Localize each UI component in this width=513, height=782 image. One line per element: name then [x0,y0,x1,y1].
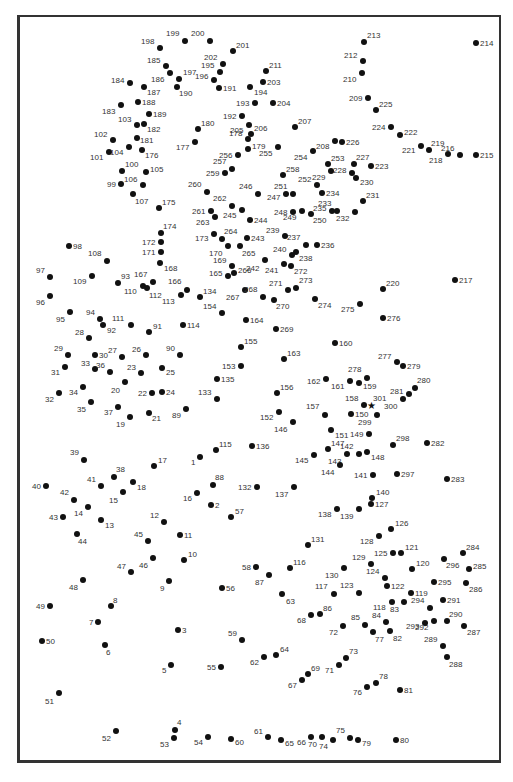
dot-label: 118 [373,604,386,612]
dot-label: 286 [469,586,482,594]
dot-label: 152 [260,414,273,422]
dot-label: 266 [238,267,251,275]
dot-102 [110,137,116,143]
dot-label: 206 [254,125,267,133]
dot-label: 20 [111,387,120,395]
dot-label: 211 [269,62,282,70]
dot-246 [255,191,261,197]
dot-210 [359,70,365,76]
dot-label: 2 [215,502,219,510]
dot-label: 117 [315,583,328,591]
dot-161 [347,378,353,384]
dot-label: 80 [400,737,409,745]
dot-label: 10 [188,551,197,559]
dot-2 [208,502,214,508]
dot-label: 296 [446,562,459,570]
dot-140 [369,495,375,501]
dot-label: 123 [340,582,353,590]
dot-132 [254,484,260,490]
dot-label: 7 [89,619,93,627]
dot-label: 19 [116,421,125,429]
dot-label: 47 [117,563,126,571]
dot-label: 64 [280,646,289,654]
dot-label: 295 [438,579,451,587]
dot-label: 111 [112,315,124,323]
dot-label: 180 [201,120,214,128]
dot-label: 246 [239,183,252,191]
dot-154 [219,310,225,316]
dot-62 [261,654,267,660]
dot-81 [397,687,403,693]
dot-label: 21 [152,415,161,423]
dot-291 [440,597,446,603]
dot-14 [85,504,91,510]
dot-label: 282 [431,440,444,448]
dot-61 [265,734,271,740]
dot-114 [180,322,186,328]
dot-130 [341,565,347,571]
dot-152 [276,409,282,415]
dot-68 [308,612,314,618]
dot-label: 263 [196,219,209,227]
dot-label: 215 [480,152,493,160]
dot-150 [348,411,354,417]
dot-297 [394,471,400,477]
dot-38 [111,474,117,480]
dot-34 [80,384,86,390]
dot-label: 33 [81,360,90,368]
dot-57 [228,514,234,520]
dot-124 [382,575,388,581]
dot-26 [143,352,149,358]
dot-label: 197 [183,69,196,77]
dot-123 [356,590,362,596]
dot-label: 203 [267,79,280,87]
dot-90 [177,352,183,358]
dot-label: 29 [54,345,63,353]
dot-60 [228,736,234,742]
dot-label: 268 [244,286,257,294]
dot-label: 294 [411,597,424,605]
dot-label: 184 [111,77,124,85]
dot-92 [100,322,106,328]
dot-263 [212,214,218,220]
dot-label: 167 [134,271,147,279]
dot-294 [427,605,433,611]
dot-244 [247,217,253,223]
dot-18 [130,479,136,485]
dot-19 [127,414,133,420]
dot-94 [97,316,103,322]
dot-label: 190 [179,90,192,98]
dot-label: 67 [288,682,297,690]
dot-236 [314,242,320,248]
dot-label: 243 [251,235,264,243]
dot-label: 238 [299,255,312,263]
dot-91 [146,329,152,335]
dot-label: 261 [192,208,205,216]
dot-153 [238,363,244,369]
dot-47 [128,569,134,575]
dot-label: 189 [153,111,166,119]
dot-56 [219,585,225,591]
dot-275 [357,301,363,307]
dot-label: 269 [280,326,293,334]
dot-16 [194,490,200,496]
dot-label: 62 [250,659,259,667]
dot-label: 265 [242,250,255,258]
dot-label: 289 [424,636,437,644]
dot-273 [293,285,299,291]
dot-label: 244 [254,217,267,225]
dot-129 [368,561,374,567]
dot-17 [151,463,157,469]
dot-label: 222 [404,129,417,137]
dot-label: 14 [74,510,83,518]
dot-label: 255 [259,150,272,158]
dot-52 [113,728,119,734]
dot-170 [225,243,231,249]
dot-192 [239,113,245,119]
dot-label: 284 [466,544,479,552]
dot-label: 262 [213,195,226,203]
dot-261 [208,208,214,214]
dot-4 [172,727,178,733]
dot-label: 166 [168,278,181,286]
dot-label: 131 [311,536,324,544]
